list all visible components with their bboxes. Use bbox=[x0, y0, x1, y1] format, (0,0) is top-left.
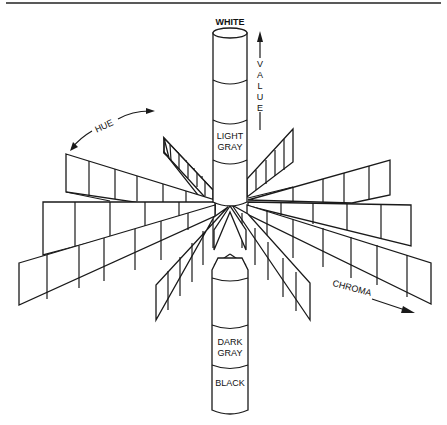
label-hue: HUE bbox=[93, 117, 114, 134]
label-chroma: CHROMA bbox=[331, 278, 372, 298]
arrow-up-icon bbox=[257, 31, 263, 42]
label-light-2: GRAY bbox=[218, 142, 243, 152]
value-letter-l: L bbox=[257, 81, 262, 91]
value-letter-a: A bbox=[257, 70, 263, 80]
label-light-1: LIGHT bbox=[217, 131, 244, 141]
label-dark-1: DARK bbox=[217, 337, 242, 347]
arrow-right-icon bbox=[146, 108, 155, 114]
chroma-axis-arrow bbox=[372, 299, 415, 313]
value-letter-v: V bbox=[257, 59, 263, 69]
label-white: WHITE bbox=[216, 17, 245, 27]
munsell-diagram: WHITE LIGHT GRAY DARK GRAY BLACK V A L U… bbox=[0, 0, 447, 425]
value-letter-e: E bbox=[257, 103, 263, 113]
label-dark-2: GRAY bbox=[218, 348, 243, 358]
arrow-right-icon bbox=[401, 306, 415, 313]
spoke-upper-right bbox=[247, 129, 293, 197]
label-black: BLACK bbox=[215, 378, 245, 388]
hue-axis-arrow bbox=[70, 108, 155, 151]
value-letter-u: U bbox=[257, 92, 264, 102]
